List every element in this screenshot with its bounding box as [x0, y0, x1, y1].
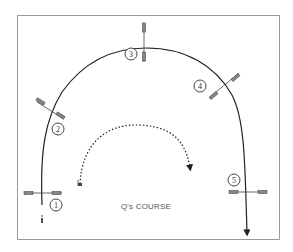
course-diagram: 1 2 3 4 5 Q's COURSE	[0, 0, 293, 252]
obstacle-3-label: 3	[129, 50, 133, 59]
obstacle-2-label: 2	[56, 125, 60, 134]
start-marker-icon	[41, 215, 43, 223]
course-title: Q's COURSE	[121, 202, 171, 211]
obstacle-1-label: 1	[54, 201, 58, 210]
obstacle-5-label: 5	[232, 176, 236, 185]
obstacle-4-label: 4	[198, 82, 202, 91]
